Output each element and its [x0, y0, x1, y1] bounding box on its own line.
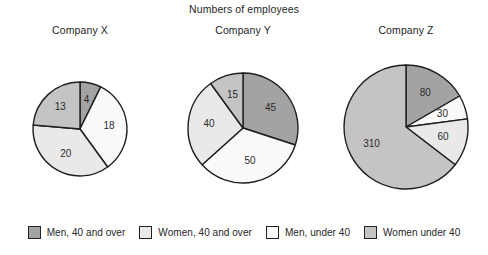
- pie-slice-value: 20: [60, 148, 72, 159]
- legend-swatch-men-under-40: [266, 226, 279, 239]
- pie-slice-value: 80: [420, 87, 432, 98]
- pie-chart-figure: Numbers of employees Company X Company Y…: [0, 0, 488, 255]
- pie-slice-value: 15: [227, 89, 239, 100]
- pie-slice-value: 50: [245, 155, 257, 166]
- legend-label-men-40-and-over: Men, 40 and over: [47, 227, 126, 238]
- chart-legend: Men, 40 and over Women, 40 and over Men,…: [0, 217, 488, 247]
- legend-swatch-women-40-and-over: [139, 226, 152, 239]
- pie-company-x: 4182013: [33, 82, 127, 176]
- legend-item-men-under-40: Men, under 40: [266, 226, 350, 239]
- pie-company-y: 45504015: [188, 73, 298, 183]
- legend-swatch-men-40-and-over: [28, 226, 41, 239]
- pie-slice-value: 13: [55, 101, 67, 112]
- pie-slice-value: 18: [103, 120, 115, 131]
- legend-item-women-40-and-over: Women, 40 and over: [139, 226, 252, 239]
- legend-label-men-under-40: Men, under 40: [285, 227, 350, 238]
- pie-slice-value: 30: [437, 108, 449, 119]
- legend-item-women-under-40: Women under 40: [364, 226, 460, 239]
- legend-swatch-women-under-40: [364, 226, 377, 239]
- pie-slice-value: 40: [204, 118, 216, 129]
- pie-slice-value: 45: [265, 102, 277, 113]
- pie-company-z: 803060310: [344, 65, 468, 189]
- legend-label-women-40-and-over: Women, 40 and over: [158, 227, 252, 238]
- pie-slice-value: 60: [438, 131, 450, 142]
- pie-slice-value: 4: [84, 94, 90, 105]
- pie-slice-value: 310: [363, 138, 380, 149]
- legend-label-women-under-40: Women under 40: [383, 227, 460, 238]
- legend-item-men-40-and-over: Men, 40 and over: [28, 226, 126, 239]
